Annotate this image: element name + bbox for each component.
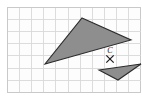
figure-canvas: C bbox=[0, 0, 142, 99]
center-point-label: C bbox=[107, 46, 113, 55]
geometry-figure: C bbox=[0, 0, 142, 99]
